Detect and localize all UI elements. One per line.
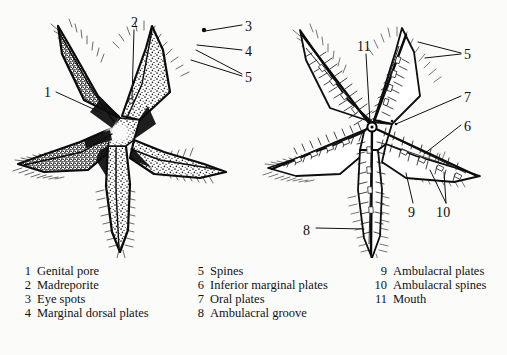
legend-item: 2 Madreporite <box>16 278 149 292</box>
legend-number: 10 <box>372 278 387 292</box>
legend-column-1: 1 Genital pore 2 Madreporite 3 Eye spots… <box>16 264 149 320</box>
legend-number: 9 <box>372 264 387 278</box>
eye-spot-marker <box>202 28 206 32</box>
oral-arm-outlines <box>268 28 480 258</box>
legend-number: 1 <box>16 264 31 278</box>
legend-item: 9 Ambulacral plates <box>372 264 486 278</box>
illustration-area: 1 2 3 4 5 11 5 7 6 9 10 8 <box>0 0 507 258</box>
legend-item: 7 Oral plates <box>189 292 328 306</box>
callout-5-aboral: 5 <box>245 71 252 85</box>
callout-2: 2 <box>131 16 138 30</box>
legend-label: Ambulacral groove <box>210 306 307 320</box>
legend-column-3: 9 Ambulacral plates 10 Ambulacral spines… <box>372 264 486 306</box>
legend-item: 11 Mouth <box>372 292 486 306</box>
madreporite-marker <box>129 99 134 104</box>
callout-6: 6 <box>464 120 471 134</box>
legend-number: 7 <box>189 292 204 306</box>
legend-item: 8 Ambulacral groove <box>189 306 328 320</box>
starfish-illustration <box>0 0 507 258</box>
legend-label: Inferior marginal plates <box>210 278 328 292</box>
legend-label: Eye spots <box>37 292 85 306</box>
legend-item: 6 Inferior marginal plates <box>189 278 328 292</box>
starfish-aboral-view <box>13 19 226 258</box>
callout-10: 10 <box>436 206 451 220</box>
legend-number: 8 <box>189 306 204 320</box>
legend-column-2: 5 Spines 6 Inferior marginal plates 7 Or… <box>189 264 328 320</box>
legend-label: Marginal dorsal plates <box>37 306 149 320</box>
legend-label: Madreporite <box>37 278 99 292</box>
legend-number: 11 <box>372 292 387 306</box>
callout-7: 7 <box>464 91 471 105</box>
legend-number: 6 <box>189 278 204 292</box>
legend-label: Genital pore <box>37 264 99 278</box>
legend-label: Spines <box>210 264 243 278</box>
callout-5-oral: 5 <box>464 48 471 62</box>
legend-label: Ambulacral plates <box>393 264 484 278</box>
legend-label: Mouth <box>393 292 426 306</box>
legend-item: 5 Spines <box>189 264 328 278</box>
starfish-oral-view <box>263 24 480 258</box>
callout-11: 11 <box>357 40 371 54</box>
legend-number: 5 <box>189 264 204 278</box>
legend-item: 4 Marginal dorsal plates <box>16 306 149 320</box>
legend-label: Oral plates <box>210 292 265 306</box>
legend-number: 4 <box>16 306 31 320</box>
figure-legend: 1 Genital pore 2 Madreporite 3 Eye spots… <box>0 258 507 355</box>
aboral-body <box>18 26 226 252</box>
legend-label: Ambulacral spines <box>393 278 486 292</box>
callout-8: 8 <box>303 224 310 238</box>
legend-item: 10 Ambulacral spines <box>372 278 486 292</box>
legend-item: 1 Genital pore <box>16 264 149 278</box>
figure-page: 1 2 3 4 5 11 5 7 6 9 10 8 1 Genital pore… <box>0 0 507 355</box>
callout-3: 3 <box>245 20 252 34</box>
callout-1: 1 <box>44 86 51 100</box>
legend-number: 3 <box>16 292 31 306</box>
callout-9: 9 <box>408 206 415 220</box>
legend-number: 2 <box>16 278 31 292</box>
callout-4: 4 <box>245 45 252 59</box>
legend-item: 3 Eye spots <box>16 292 149 306</box>
